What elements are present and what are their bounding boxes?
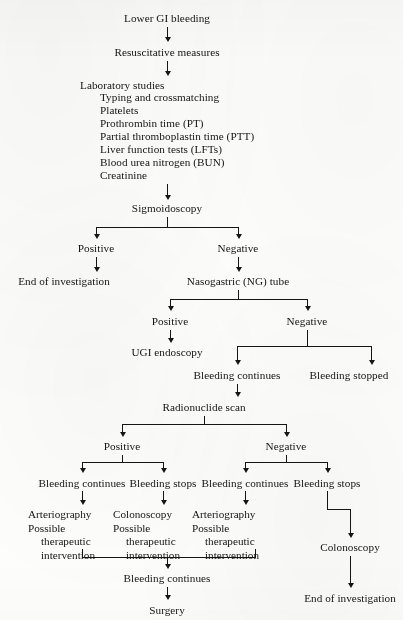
arrowhead-to-resuscitative — [165, 37, 171, 42]
node-bleeding-continues-final: Bleeding continues — [124, 572, 211, 585]
arrowhead-to-ng-negative — [305, 306, 311, 311]
connector-neg-bleeding-stops-jog-down1 — [327, 491, 328, 509]
connector-ng-negative-stem — [307, 330, 308, 347]
arteriography-2-line1: Arteriography — [192, 508, 259, 521]
arrowhead-to-radionuclide-scan — [235, 392, 241, 397]
connector-radionuclide-stem — [204, 416, 205, 424]
lab-item-blood-urea-nitrogen: Blood urea nitrogen (BUN) — [100, 156, 225, 169]
connector-sigmoidoscopy-bar — [96, 227, 238, 228]
colonoscopy-block-line4: intervention — [113, 549, 180, 562]
arteriography-2-line2: Possible — [192, 522, 259, 535]
lab-item-prothrombin-time: Prothrombin time (PT) — [100, 117, 204, 130]
arrowhead-to-end-of-investigation-right — [348, 583, 354, 588]
arrowhead-to-sigmoidoscopy — [165, 195, 171, 200]
lab-item-typing-and-crossmatching: Typing and crossmatching — [100, 91, 219, 104]
arrowhead-to-end-of-investigation-left — [94, 267, 100, 272]
connector-radio-negative-stem — [286, 455, 287, 462]
arrowhead-to-colonoscopy-block — [161, 500, 167, 505]
arteriography-1-line2: Possible — [28, 522, 95, 535]
arrowhead-to-pos-bleeding-stops — [161, 468, 167, 473]
arteriography-2-line4: intervention — [192, 549, 259, 562]
node-lower-gi-bleeding: Lower GI bleeding — [124, 12, 210, 25]
arrowhead-to-bleeding-continues-final — [165, 564, 171, 569]
colonoscopy-block-line1: Colonoscopy — [113, 508, 180, 521]
node-neg-bleeding-stops: Bleeding stops — [294, 477, 361, 490]
node-sigmoidoscopy: Sigmoidoscopy — [132, 202, 202, 215]
flowchart-page: Lower GI bleeding Resuscitative measures… — [0, 0, 403, 620]
arrowhead-to-neg-bleeding-stops — [325, 468, 331, 473]
node-resuscitative-measures: Resuscitative measures — [114, 46, 219, 59]
arrowhead-to-surgery — [165, 595, 171, 600]
connector-radionuclide-bar — [122, 424, 286, 425]
node-end-of-investigation-right: End of investigation — [304, 592, 396, 605]
connector-merge-left-riser — [82, 549, 83, 557]
lab-item-partial-thromboplastin-time: Partial thromboplastin time (PTT) — [100, 130, 254, 143]
arrowhead-to-bleeding-continues-1 — [235, 360, 241, 365]
colonoscopy-block-line3: therapeutic — [113, 535, 180, 548]
node-colonoscopy-right: Colonoscopy — [320, 541, 380, 554]
lab-item-liver-function-tests: Liver function tests (LFTs) — [100, 143, 222, 156]
connector-radio-positive-stem — [122, 455, 123, 462]
arrowhead-to-ugi-endoscopy — [168, 338, 174, 343]
treatment-block-arteriography-1: Arteriography Possible therapeutic inter… — [28, 508, 95, 562]
arrowhead-to-radio-positive — [120, 432, 126, 437]
connector-radio-negative-bar — [245, 462, 327, 463]
connector-merge-right-riser — [255, 549, 256, 557]
connector-radio-positive-bar — [82, 462, 163, 463]
arrowhead-to-ng-tube — [236, 267, 242, 272]
node-bleeding-continues-1: Bleeding continues — [194, 369, 281, 382]
node-pos-bleeding-continues: Bleeding continues — [39, 477, 126, 490]
arteriography-1-line3: therapeutic — [28, 535, 95, 548]
node-nasogastric-tube: Nasogastric (NG) tube — [187, 275, 289, 288]
node-sigmoidoscopy-negative: Negative — [218, 242, 259, 255]
node-radionuclide-scan: Radionuclide scan — [162, 401, 245, 414]
node-ng-positive: Positive — [152, 315, 188, 328]
connector-merge-bar — [82, 557, 256, 558]
arrowhead-to-bleeding-stopped — [369, 360, 375, 365]
connector-ng-stem — [238, 290, 239, 298]
connector-ng-bar — [170, 299, 307, 300]
node-ugi-endoscopy: UGI endoscopy — [131, 346, 202, 359]
arrowhead-to-arteriography-1 — [80, 500, 86, 505]
arrowhead-to-ng-positive — [168, 306, 174, 311]
lab-item-creatinine: Creatinine — [100, 169, 147, 182]
connector-neg-bleeding-stops-jog-down2 — [350, 509, 351, 534]
treatment-block-colonoscopy: Colonoscopy Possible therapeutic interve… — [113, 508, 180, 562]
connector-sigmoidoscopy-stem — [167, 217, 168, 226]
node-radionuclide-positive: Positive — [104, 440, 140, 453]
node-end-of-investigation-left: End of investigation — [18, 275, 110, 288]
running-head — [18, 0, 318, 7]
connector-colonoscopy-right-to-end — [350, 556, 351, 585]
node-laboratory-studies: Laboratory studies — [80, 79, 164, 92]
node-sigmoidoscopy-positive: Positive — [78, 242, 114, 255]
arrowhead-to-laboratory-studies — [165, 71, 171, 76]
connector-neg-bleeding-stops-jog-across — [327, 509, 350, 510]
arrowhead-to-radio-negative — [284, 432, 290, 437]
colonoscopy-block-line2: Possible — [113, 522, 180, 535]
arteriography-2-line3: therapeutic — [192, 535, 259, 548]
node-radionuclide-negative: Negative — [266, 440, 307, 453]
treatment-block-arteriography-2: Arteriography Possible therapeutic inter… — [192, 508, 259, 562]
arteriography-1-line1: Arteriography — [28, 508, 95, 521]
node-bleeding-stopped: Bleeding stopped — [310, 369, 389, 382]
arrowhead-to-pos-bleeding-continues — [80, 468, 86, 473]
arrowhead-to-neg-bleeding-continues — [243, 468, 249, 473]
arrowhead-to-arteriography-2 — [243, 500, 249, 505]
node-pos-bleeding-stops: Bleeding stops — [130, 477, 197, 490]
node-surgery: Surgery — [149, 604, 185, 617]
arrowhead-to-colonoscopy-right — [348, 533, 354, 538]
arteriography-1-line4: intervention — [28, 549, 95, 562]
connector-ng-negative-bar — [237, 346, 371, 347]
node-ng-negative: Negative — [287, 315, 328, 328]
lab-item-platelets: Platelets — [100, 104, 138, 117]
arrowhead-to-sig-negative — [236, 234, 242, 239]
node-neg-bleeding-continues: Bleeding continues — [202, 477, 289, 490]
arrowhead-to-sig-positive — [94, 234, 100, 239]
